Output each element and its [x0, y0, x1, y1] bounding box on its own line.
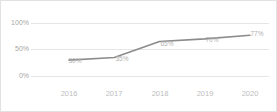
line-chart-figure: 100% 50% 0% 2016 2017 2018 2019 2020 30%… — [0, 0, 277, 112]
data-label-2019: 70% — [205, 36, 218, 43]
x-axis-label-2020: 2020 — [242, 89, 259, 98]
x-axis-label-2019: 2019 — [197, 89, 214, 98]
data-label-2017: 35% — [115, 55, 128, 62]
x-axis-label-2017: 2017 — [106, 89, 123, 98]
series-line — [69, 35, 250, 60]
plot-area: 100% 50% 0% 2016 2017 2018 2019 2020 30%… — [1, 1, 277, 112]
data-label-2016: 30% — [68, 57, 81, 64]
series-line-group — [1, 1, 277, 112]
x-axis-label-2016: 2016 — [61, 89, 78, 98]
x-axis-label-2018: 2018 — [152, 89, 169, 98]
data-label-2018: 65% — [160, 40, 173, 47]
data-label-2020: 77% — [250, 30, 263, 37]
